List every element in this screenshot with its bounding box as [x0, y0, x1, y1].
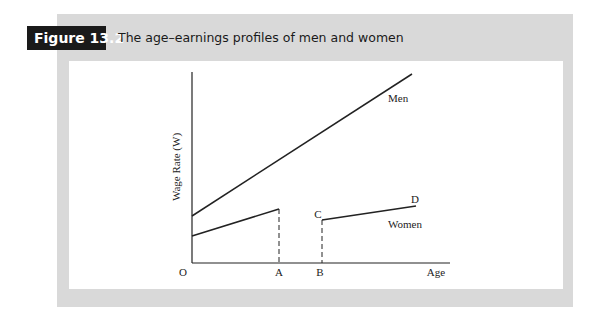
men-label: Men: [388, 92, 409, 104]
age-earnings-chart: Wage Rate (W) O A B Age Men C D Women: [0, 0, 601, 328]
women-label: Women: [388, 218, 422, 230]
origin-label: O: [179, 266, 187, 278]
y-axis-label: Wage Rate (W): [170, 133, 183, 201]
tick-b-label: B: [316, 266, 323, 278]
point-d-label: D: [411, 193, 419, 205]
men-line: [192, 74, 412, 216]
women-line-early: [192, 209, 279, 236]
point-c-label: C: [314, 208, 321, 220]
x-axis-label: Age: [427, 266, 445, 278]
tick-a-label: A: [275, 266, 283, 278]
